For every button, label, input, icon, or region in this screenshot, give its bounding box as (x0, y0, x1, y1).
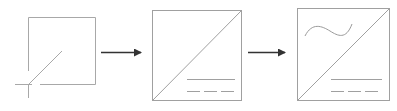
diagram-canvas (0, 0, 397, 111)
diagram-svg (0, 0, 397, 111)
stage-2-square (153, 11, 242, 101)
stage-1-square (15, 18, 96, 99)
wave-curve (305, 24, 352, 36)
stage-3-square (298, 9, 390, 101)
